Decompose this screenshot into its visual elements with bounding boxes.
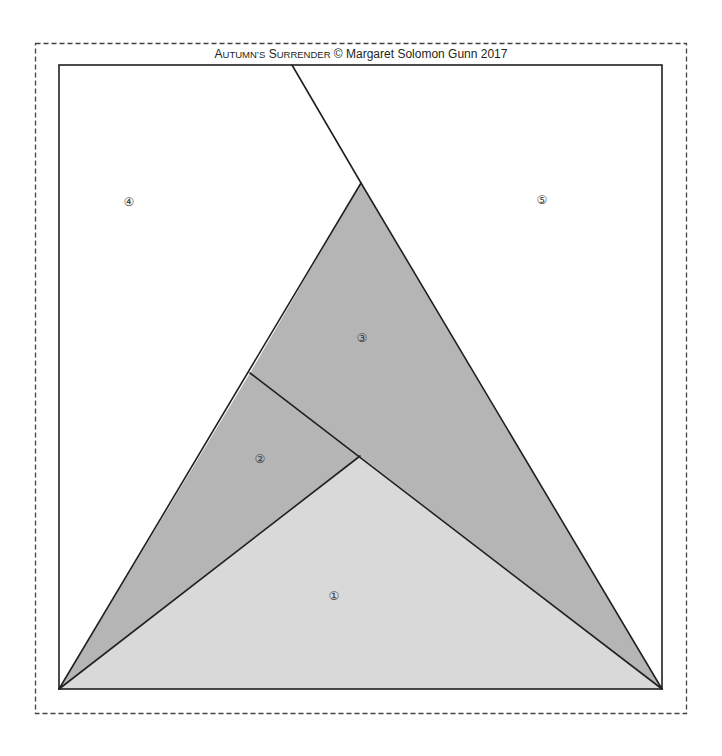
region-label-5: ⑤ bbox=[537, 193, 548, 207]
quilt-pattern-diagram: AUTUMN’S SURRENDER © Margaret Solomon Gu… bbox=[0, 0, 722, 756]
region-label-3: ③ bbox=[357, 331, 368, 345]
region-label-1: ① bbox=[329, 589, 340, 603]
region-label-4: ④ bbox=[124, 195, 135, 209]
region-label-2: ② bbox=[255, 452, 266, 466]
pattern-title: AUTUMN’S SURRENDER © Margaret Solomon Gu… bbox=[215, 47, 508, 61]
